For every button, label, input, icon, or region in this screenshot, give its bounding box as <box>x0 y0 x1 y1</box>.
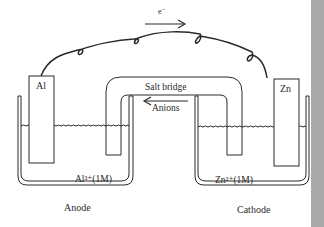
zn-solution-label: Zn²⁺(1M) <box>215 176 253 186</box>
al-solution-label: Al³⁺(1M) <box>75 175 112 185</box>
cathode-label: Cathode <box>237 205 270 215</box>
anions-label: Anions <box>152 104 179 114</box>
anode-label: Anode <box>64 203 91 213</box>
zn-electrode-label: Zn <box>280 84 291 94</box>
electron-label: e⁻ <box>158 8 166 16</box>
galvanic-cell-diagram: e⁻ Al Zn Salt bridge Anions Al³⁺(1M) Zn²… <box>0 0 324 227</box>
external-wire <box>41 32 267 78</box>
al-electrode-label: Al <box>36 81 46 91</box>
diagram-drawing <box>0 0 324 227</box>
page-edge-strip <box>311 0 324 227</box>
salt-bridge-label: Salt bridge <box>145 83 186 93</box>
